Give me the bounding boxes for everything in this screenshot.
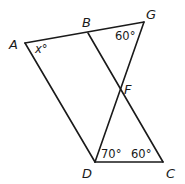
geometry-diagram: A B G F D C x° 60° 70° 60° [0,0,185,184]
vertex-label-G: G [146,7,156,22]
angle-label-G: 60° [115,29,135,43]
vertex-label-B: B [82,15,91,30]
segment-BC [88,33,163,162]
vertex-label-D: D [82,166,92,181]
angle-label-C: 60° [131,147,151,161]
vertex-label-C: C [166,166,176,181]
segment-AD [25,43,95,162]
vertex-label-F: F [124,82,132,97]
segment-GD [95,22,144,162]
vertex-label-A: A [8,37,18,52]
angle-label-D: 70° [101,147,121,161]
angle-label-A: x° [34,42,48,56]
